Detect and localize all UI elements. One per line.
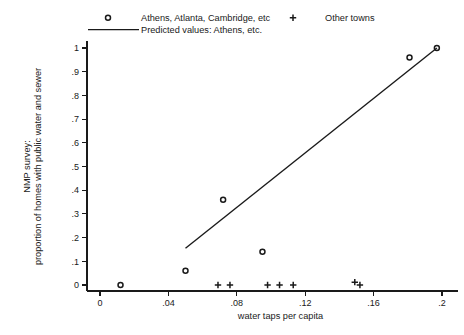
y-tick-label: .6 xyxy=(71,138,79,148)
y-tick-label: .3 xyxy=(71,209,79,219)
y-tick-label: .1 xyxy=(71,257,79,267)
x-tick-label: .16 xyxy=(367,298,380,308)
x-tick-label: .12 xyxy=(299,298,312,308)
x-tick-label: 0 xyxy=(97,298,102,308)
data-point-circle xyxy=(183,268,188,273)
legend-marker-plus xyxy=(290,15,296,21)
chart-ticks: 0.1.2.3.4.5.6.7.8.910.04.08.12.16.2 xyxy=(71,43,445,308)
scatter-plot: Athens, Atlanta, Cambridge, etcOther tow… xyxy=(0,0,464,335)
legend-label-other-towns: Other towns xyxy=(325,13,375,23)
y-axis-title-line1: NMP survey: xyxy=(22,140,32,192)
y-tick-label: .7 xyxy=(71,114,79,124)
data-point-plus xyxy=(276,282,282,288)
legend-marker-circle xyxy=(106,15,111,20)
legend-label-predicted: Predicted values: Athens, etc. xyxy=(141,25,262,35)
x-tick-label: .2 xyxy=(438,298,446,308)
y-tick-label: .5 xyxy=(71,162,79,172)
data-point-plus xyxy=(215,282,221,288)
data-point-circle xyxy=(407,55,412,60)
x-tick-label: .04 xyxy=(162,298,175,308)
data-point-circle xyxy=(118,283,123,288)
y-tick-label: .9 xyxy=(71,67,79,77)
data-point-plus xyxy=(227,282,233,288)
prediction-line xyxy=(186,48,437,248)
x-axis-title: water taps per capita xyxy=(237,311,324,321)
legend-label-athens: Athens, Atlanta, Cambridge, etc xyxy=(141,13,271,23)
y-tick-label: .8 xyxy=(71,91,79,101)
chart-axis-titles: water taps per capitaNMP survey:proporti… xyxy=(22,68,324,321)
chart-axes xyxy=(87,41,458,291)
data-point-circle xyxy=(221,197,226,202)
y-tick-label: .4 xyxy=(71,185,79,195)
y-tick-label: 0 xyxy=(74,280,79,290)
chart-legend: Athens, Atlanta, Cambridge, etcOther tow… xyxy=(88,13,375,35)
x-tick-label: .08 xyxy=(231,298,244,308)
data-point-circle xyxy=(260,249,265,254)
y-tick-label: 1 xyxy=(74,43,79,53)
data-point-plus xyxy=(264,282,270,288)
y-tick-label: .2 xyxy=(71,233,79,243)
y-axis-title-line2: proportion of homes with public water an… xyxy=(33,68,43,265)
chart-series xyxy=(118,46,439,289)
data-point-plus xyxy=(290,282,296,288)
chart-figure: Athens, Atlanta, Cambridge, etcOther tow… xyxy=(0,0,464,335)
